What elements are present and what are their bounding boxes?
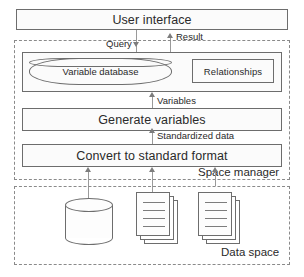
document-text-line [205,202,227,203]
document-text-line [143,226,165,227]
document-sheet-front [136,192,170,236]
ingest-arrow-up-icon-3 [212,167,218,172]
database-cylinder-icon [65,198,113,245]
result-arrow-up-icon [167,33,173,38]
standardized-data-connector-line [152,133,153,144]
variables-flow-label: Variables [157,95,196,106]
ingest-connector-line-3 [215,172,216,186]
space-manager-caption: Space manager [198,166,279,178]
standardized-data-flow-label: Standardized data [157,130,234,141]
ingest-arrow-up-icon-2 [149,167,155,172]
document-sheet-front [198,192,232,236]
document-stack-icon-2 [198,192,240,244]
convert-to-standard-format-label: Convert to standard format [76,149,227,163]
user-interface-label: User interface [112,13,191,27]
document-text-line [143,210,165,211]
document-stack-icon-1 [136,192,178,244]
variable-database-node: Variable database [29,58,172,85]
standardized-data-arrow-up-icon [149,128,155,133]
relationships-box: Relationships [192,59,274,83]
generate-variables-label: Generate variables [98,113,205,127]
data-space-caption: Data space [221,246,279,258]
variable-database-label: Variable database [29,58,172,85]
ingest-arrow-up-icon-1 [85,167,91,172]
relationships-label: Relationships [204,66,262,77]
user-interface-box: User interface [16,9,288,30]
convert-to-standard-format-box: Convert to standard format [22,144,282,167]
cylinder-top [65,198,113,212]
document-text-line [143,202,165,203]
document-text-line [205,218,227,219]
variables-arrow-up-icon [149,92,155,97]
architecture-diagram: User interface Query Result Space manage… [0,0,304,277]
document-text-line [205,210,227,211]
document-text-line [143,218,165,219]
document-text-line [205,226,227,227]
